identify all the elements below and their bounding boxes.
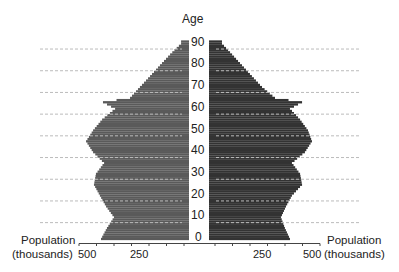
age-tick-70: 70 — [191, 79, 204, 91]
age-tick-20: 20 — [191, 188, 204, 200]
age-tick-60: 60 — [191, 101, 204, 113]
age-tick-50: 50 — [191, 123, 204, 135]
x-tick-250-left: 250 — [130, 248, 148, 260]
x-axis-title-right-line1: Population — [327, 234, 381, 246]
age-tick-0: 0 — [195, 231, 202, 243]
age-tick-30: 30 — [191, 166, 204, 178]
age-tick-40: 40 — [191, 144, 204, 156]
age-axis-title: Age — [182, 13, 203, 25]
age-tick-90: 90 — [191, 36, 204, 48]
x-tick-500-left: 500 — [78, 248, 96, 260]
x-axis-title-left-line1: Population — [21, 234, 75, 246]
x-axis-title-left-line2: (thousands) — [12, 248, 73, 260]
age-tick-80: 80 — [191, 57, 204, 69]
age-tick-10: 10 — [191, 209, 204, 221]
x-tick-250-right: 250 — [253, 248, 271, 260]
x-axis-title-right-line2: (thousands) — [324, 248, 385, 260]
x-tick-500-right: 500 — [303, 248, 321, 260]
